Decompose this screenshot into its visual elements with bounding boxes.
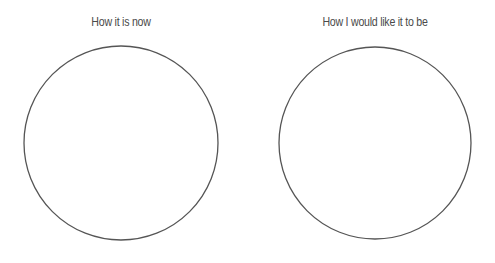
circle-current bbox=[24, 46, 218, 240]
circle-desired bbox=[279, 47, 471, 239]
circles-canvas bbox=[0, 0, 495, 263]
